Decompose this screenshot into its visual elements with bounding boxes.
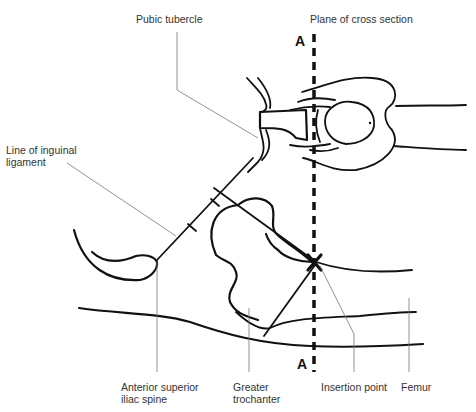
anatomical-diagram: Pubic tubercle Plane of cross section Li… [0,0,476,412]
label-greater-trochanter: Greater trochanter [233,381,280,405]
pubic-region [247,78,307,172]
trochanter-line [264,265,315,336]
label-anterior-superior-iliac-spine: Anterior superior iliac spine [121,381,199,405]
label-femur: Femur [401,381,431,393]
label-insertion-point: Insertion point [321,381,387,393]
leader-lines [67,32,409,372]
oblique-line [214,188,316,262]
label-plane-of-cross-section: Plane of cross section [310,13,413,25]
diagram-drawing [0,0,476,412]
label-pubic-tubercle: Pubic tubercle [136,13,203,25]
genitalia-outline [290,78,466,171]
label-line-of-inguinal-ligament: Line of inguinal ligament [6,144,77,168]
inguinal-ligament-line [157,158,253,260]
plane-marker-top: A [295,33,305,49]
lower-thigh-contour [79,308,423,347]
upper-thigh-contour [316,262,412,272]
femoral-head-outline [211,198,312,320]
iliac-crest [74,230,157,280]
plane-marker-bottom: A [297,356,307,372]
mid-thigh-contour [236,312,416,328]
